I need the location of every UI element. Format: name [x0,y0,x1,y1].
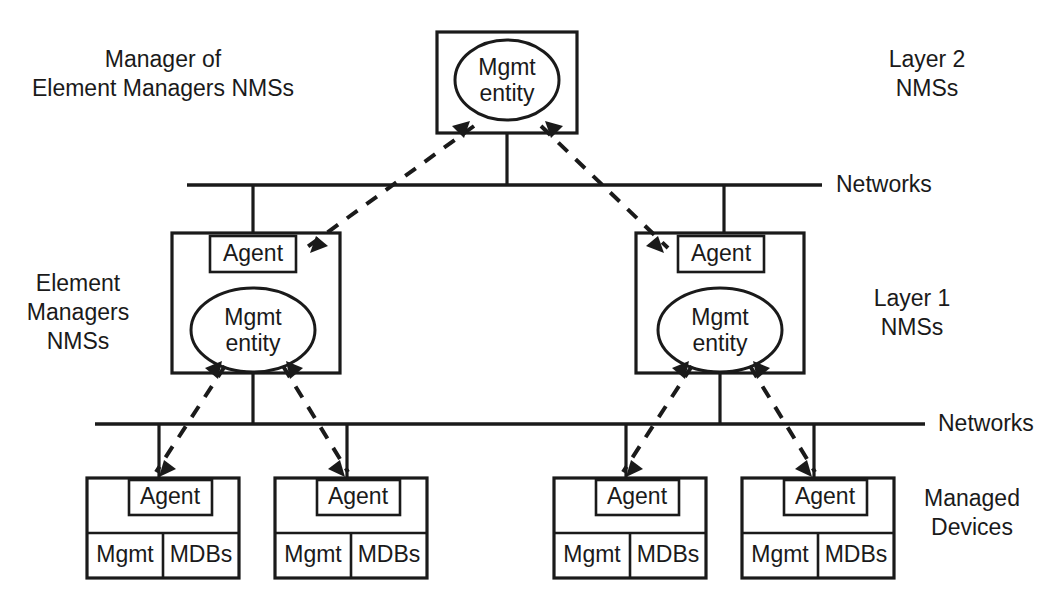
element-managers-label-line1: Element [36,270,121,296]
mgmt-link-d4-dashes [750,366,815,472]
label-managed-devices: Managed Devices [924,485,1020,540]
layer2-manager-node: Mgmt entity [437,32,577,133]
layer1-nmss-label-line1: Layer 1 [874,285,951,311]
label-layer1-nmss: Layer 1 NMSs [874,285,951,340]
layer1-right-mgmt-entity-label-line2: entity [693,330,748,356]
layer1-nmss-label-line2: NMSs [881,314,944,340]
managed-device-4: Agent Mgmt MDBs [742,478,894,578]
device-1-mgmt-label: Mgmt [96,541,154,567]
label-layer2-nmss: Layer 2 NMSs [889,46,966,101]
managed-devices-label-line2: Devices [931,514,1013,540]
managed-device-2: Agent Mgmt MDBs [275,478,427,578]
device-2-mgmt-label: Mgmt [284,541,342,567]
device-2-agent-label: Agent [328,483,389,509]
device-3-agent-label: Agent [607,483,668,509]
lower-network-label: Networks [938,410,1034,436]
layer1-left-mgmt-entity-label-line1: Mgmt [224,304,282,330]
mgmt-link-d4-arrow-down [795,460,812,477]
device-4-mdbs-label: MDBs [825,541,888,567]
layer1-left-node: Agent Mgmt entity [172,233,340,373]
mgmt-link-d1-arrow-down [159,460,176,477]
element-managers-label-line3: NMSs [47,328,110,354]
mgmt-link-right-dashes [541,126,668,248]
manager-of-label-line1: Manager of [105,46,222,72]
mgmt-link-layer1-right-to-device-4 [750,361,815,477]
device-2-mdbs-label: MDBs [358,541,421,567]
managed-devices-label-line1: Managed [924,485,1020,511]
layer2-nmss-label-line1: Layer 2 [889,46,966,72]
label-element-managers-nmss: Element Managers NMSs [27,270,129,354]
mgmt-link-d2-dashes [283,366,348,472]
device-4-mgmt-label: Mgmt [751,541,809,567]
managed-device-3: Agent Mgmt MDBs [554,478,706,578]
layer1-left-mgmt-entity-label-line2: entity [226,330,281,356]
manager-of-label-line2: Element Managers NMSs [32,75,294,101]
device-1-mdbs-label: MDBs [170,541,233,567]
layer1-left-agent-label: Agent [223,240,284,266]
layer1-right-node: Agent Mgmt entity [636,233,804,373]
device-4-agent-label: Agent [795,483,856,509]
mgmt-link-left-dashes [306,126,474,248]
layer2-mgmt-entity-label-line2: entity [480,80,535,106]
network-management-diagram: Mgmt entity Networks Agent Mgmt entity A… [0,0,1044,598]
mgmt-link-d3-dashes [623,366,692,472]
label-manager-of-element-managers: Manager of Element Managers NMSs [32,46,294,101]
upper-network-label: Networks [836,171,932,197]
diagram-canvas: Mgmt entity Networks Agent Mgmt entity A… [0,0,1044,598]
layer1-right-mgmt-entity-label-line1: Mgmt [691,304,749,330]
device-3-mgmt-label: Mgmt [563,541,621,567]
device-3-mdbs-label: MDBs [637,541,700,567]
mgmt-link-layer1-left-to-device-1 [156,361,225,477]
layer2-nmss-label-line2: NMSs [896,75,959,101]
layer1-right-agent-label: Agent [691,240,752,266]
mgmt-link-d2-arrow-down [328,460,345,477]
mgmt-link-d3-arrow-down [626,460,643,477]
mgmt-link-layer1-left-to-device-2 [283,361,348,477]
element-managers-label-line2: Managers [27,299,129,325]
device-1-agent-label: Agent [140,483,201,509]
mgmt-link-d1-dashes [156,366,225,472]
layer2-mgmt-entity-label-line1: Mgmt [478,54,536,80]
mgmt-link-layer1-right-to-device-3 [623,361,692,477]
managed-device-1: Agent Mgmt MDBs [87,478,239,578]
